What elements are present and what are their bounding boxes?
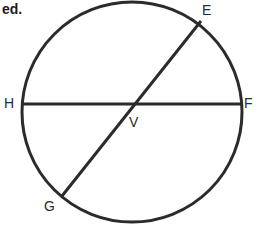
chord-eg-line bbox=[62, 21, 201, 196]
circle-shape bbox=[22, 2, 242, 222]
point-label-v: V bbox=[129, 115, 138, 129]
point-label-g: G bbox=[44, 199, 55, 213]
point-label-h: H bbox=[4, 96, 14, 110]
point-label-f: F bbox=[244, 96, 253, 110]
cut-off-heading-text: ed. bbox=[2, 2, 22, 16]
geometry-figure: ed. E F H V G bbox=[0, 0, 261, 230]
point-label-e: E bbox=[202, 3, 211, 17]
